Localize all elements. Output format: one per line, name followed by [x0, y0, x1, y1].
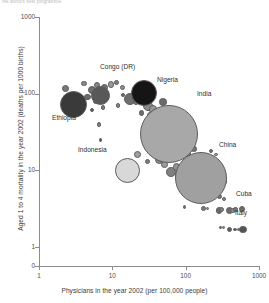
bubble-point	[175, 170, 186, 181]
bubble-india	[140, 105, 198, 163]
bubble-point	[224, 180, 228, 184]
top-caption-text: the world's best programme	[2, 0, 152, 5]
bubble-point	[121, 93, 125, 97]
bubble-point	[134, 151, 141, 158]
bubble-nigeria	[131, 80, 157, 106]
bubble-point	[143, 101, 153, 111]
bubble-point	[173, 163, 181, 171]
bubble-point	[101, 105, 105, 109]
y-tick-label: 1000	[9, 14, 35, 20]
bubble-point	[97, 122, 102, 127]
bubble-point	[114, 80, 119, 85]
bubble-point	[81, 81, 86, 86]
x-tick-label: 1	[24, 272, 54, 279]
bubble-point	[187, 177, 196, 186]
y-tick-label-wrap: 0	[0, 263, 35, 270]
bubble-point	[222, 226, 225, 229]
x-tick-mark	[186, 266, 187, 270]
x-axis-title: Physicians in the year 2002 (per 100,000…	[0, 287, 269, 294]
bubble-point	[205, 184, 212, 191]
y-tick-label-wrap: 1	[0, 244, 35, 251]
y-tick-label: 1	[9, 244, 35, 250]
point-label-indonesia: Indonesia	[78, 146, 107, 153]
bubble-point	[219, 174, 223, 178]
plot-area	[0, 0, 269, 303]
bubble-point	[219, 226, 221, 228]
bubble-point	[88, 86, 96, 94]
bubble-point	[187, 152, 191, 156]
bubble-point	[177, 139, 181, 143]
y-tick-mark	[35, 94, 39, 95]
y-axis-line	[39, 17, 40, 266]
bubble-point	[201, 206, 206, 211]
y-tick-mark	[35, 170, 39, 171]
bubble-chart-figure: the world's best programme 1000100101011…	[0, 0, 269, 303]
bubble-point	[226, 207, 233, 214]
bubble-point	[120, 85, 125, 90]
bubble-point	[170, 116, 174, 120]
bubble-point	[172, 145, 177, 150]
bubble-point	[158, 120, 163, 125]
x-tick-label: 10	[97, 272, 127, 279]
bubble-point	[154, 117, 160, 123]
bubble-point	[192, 186, 199, 193]
bubble-point	[197, 159, 201, 163]
bubble-point	[196, 182, 202, 188]
bubble-point	[161, 161, 168, 168]
bubble-point	[202, 165, 206, 169]
bubble-point	[147, 112, 154, 119]
point-label-china: China	[219, 141, 236, 148]
bubble-point	[90, 108, 94, 112]
bubble-point	[219, 207, 224, 212]
bubble-indonesia	[115, 158, 140, 183]
bubble-point	[62, 85, 69, 92]
bubble-point	[201, 189, 207, 195]
point-label-india: India	[197, 90, 211, 97]
x-tick-label: 1000	[244, 272, 269, 279]
bubble-point	[222, 197, 226, 201]
bubble-point	[124, 93, 136, 105]
bubble-point	[216, 207, 222, 213]
point-label-congo-dr: Congo (DR)	[100, 63, 135, 70]
bubble-point	[214, 153, 217, 156]
bubble-point	[209, 149, 213, 153]
bubble-point	[207, 159, 212, 164]
bubble-point	[101, 84, 108, 91]
bubble-point	[108, 81, 114, 87]
bubble-point	[142, 129, 146, 133]
bubble-point	[84, 94, 90, 100]
bubble-italy	[239, 226, 246, 233]
bubble-point	[213, 169, 217, 173]
x-tick-mark	[112, 266, 113, 270]
bubble-point	[185, 171, 191, 177]
bubble-point	[183, 205, 187, 209]
bubble-point	[227, 227, 232, 232]
point-label-italy: Italy	[235, 209, 247, 216]
bubble-point	[116, 103, 120, 107]
bubble-point	[99, 138, 103, 142]
bubble-point	[155, 155, 164, 164]
bubble-point	[179, 148, 185, 154]
bubble-point	[237, 228, 240, 231]
bubble-point	[94, 82, 100, 88]
bubble-point	[206, 207, 209, 210]
bubble-point	[211, 190, 217, 196]
y-axis-title: Aged 1 to 4 mortality in the year 2002 (…	[17, 34, 24, 244]
point-label-nigeria: Nigeria	[157, 76, 178, 83]
bubble-point	[233, 228, 237, 232]
y-tick-label-wrap: 1000	[0, 14, 35, 21]
bubble-point	[159, 98, 167, 106]
y-tick-mark	[35, 247, 39, 248]
bubble-point	[180, 179, 188, 187]
bubble-congo-dr	[91, 86, 110, 105]
y-tick-mark	[35, 17, 39, 18]
bubble-point	[191, 146, 196, 151]
x-axis-line	[39, 266, 260, 267]
point-label-ethiopia: Ethiopia	[52, 114, 76, 121]
bubble-point	[139, 110, 144, 115]
bubble-point	[149, 105, 157, 113]
bubble-point	[145, 159, 151, 165]
point-label-cuba: Cuba	[236, 190, 252, 197]
x-tick-label: 100	[171, 272, 201, 279]
y-tick-label: 0	[9, 263, 35, 269]
